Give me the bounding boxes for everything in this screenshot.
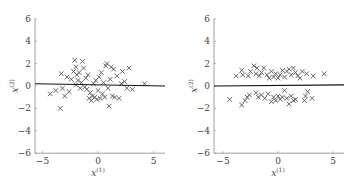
scatter-panel-2: 6420−2−4−6−505x(1)x(2) — [187, 14, 344, 178]
point-marker — [289, 73, 294, 78]
x-tick-label: −5 — [36, 156, 50, 166]
point-marker — [117, 96, 122, 101]
point-marker — [298, 76, 303, 81]
point-marker — [111, 67, 116, 72]
scatter-panel-1: 6420−2−4−6−505x(1)x(2) — [8, 14, 165, 178]
point-marker — [241, 73, 246, 78]
point-marker — [227, 97, 232, 102]
point-marker — [282, 75, 287, 80]
point-marker — [130, 87, 135, 92]
point-marker — [77, 70, 82, 75]
y-tick-label: 6 — [204, 14, 210, 24]
point-marker — [80, 59, 85, 64]
point-marker — [69, 77, 74, 82]
point-marker — [302, 98, 307, 103]
x-tick-label: 0 — [95, 156, 101, 166]
point-marker — [247, 93, 252, 98]
point-marker — [289, 94, 294, 99]
point-marker — [97, 75, 102, 80]
point-marker — [304, 71, 309, 76]
y-tick-label: −2 — [197, 103, 210, 113]
point-marker — [311, 74, 316, 79]
point-marker — [99, 70, 104, 75]
point-marker — [62, 94, 67, 99]
point-marker — [287, 67, 292, 72]
point-marker — [72, 58, 77, 63]
y-tick-label: 4 — [25, 36, 31, 46]
y-tick-label: 2 — [204, 59, 210, 69]
scatter-figure: 6420−2−4−6−505x(1)x(2)6420−2−4−6−505x(1)… — [0, 0, 357, 185]
point-marker — [58, 106, 63, 111]
x-axis-label: x(1) — [91, 166, 105, 178]
point-marker — [280, 68, 285, 73]
y-tick-label: −6 — [197, 148, 211, 158]
point-marker — [234, 74, 239, 79]
point-marker — [266, 92, 271, 97]
point-marker — [107, 104, 112, 109]
point-marker — [269, 99, 274, 104]
point-marker — [287, 102, 292, 107]
x-tick-label: 0 — [275, 156, 281, 166]
x-tick-label: −5 — [216, 156, 230, 166]
point-marker — [269, 69, 274, 74]
point-marker — [54, 88, 59, 93]
y-tick-label: 4 — [204, 36, 210, 46]
y-tick-label: 0 — [25, 81, 31, 91]
point-marker — [261, 66, 266, 71]
y-tick-label: 2 — [25, 59, 31, 69]
point-marker — [239, 103, 244, 108]
point-marker — [101, 80, 106, 85]
point-marker — [310, 96, 315, 101]
point-marker — [106, 86, 111, 91]
point-marker — [120, 69, 125, 74]
point-marker — [60, 86, 65, 91]
point-marker — [74, 65, 79, 70]
point-marker — [115, 74, 120, 79]
y-tick-label: −4 — [197, 126, 211, 136]
y-tick-label: 0 — [204, 81, 210, 91]
point-marker — [127, 66, 132, 71]
point-marker — [59, 71, 64, 76]
point-marker — [108, 77, 113, 82]
point-marker — [125, 86, 130, 91]
point-marker — [67, 89, 72, 94]
point-marker — [239, 68, 244, 73]
point-marker — [81, 66, 86, 71]
point-marker — [280, 95, 285, 100]
point-marker — [96, 88, 101, 93]
point-marker — [248, 69, 253, 74]
y-tick-label: 6 — [25, 14, 31, 24]
y-tick-label: −4 — [18, 126, 32, 136]
point-marker — [322, 71, 327, 76]
point-marker — [285, 96, 290, 101]
y-axis-label: x(2) — [8, 79, 20, 93]
separating-line — [214, 85, 344, 86]
point-marker — [254, 90, 259, 95]
y-axis-label: x(2) — [187, 79, 199, 93]
point-marker — [305, 89, 310, 94]
point-marker — [48, 92, 53, 97]
point-marker — [263, 96, 268, 101]
x-tick-label: 5 — [151, 156, 157, 166]
point-marker — [78, 86, 83, 91]
point-marker — [282, 88, 287, 93]
point-marker — [300, 69, 305, 74]
x-tick-label: 5 — [330, 156, 336, 166]
point-marker — [303, 94, 308, 99]
y-tick-label: −6 — [18, 148, 32, 158]
y-tick-label: −2 — [18, 103, 31, 113]
point-marker — [246, 74, 251, 79]
point-marker — [291, 66, 296, 71]
point-marker — [65, 75, 70, 80]
x-axis-label: x(1) — [271, 166, 285, 178]
